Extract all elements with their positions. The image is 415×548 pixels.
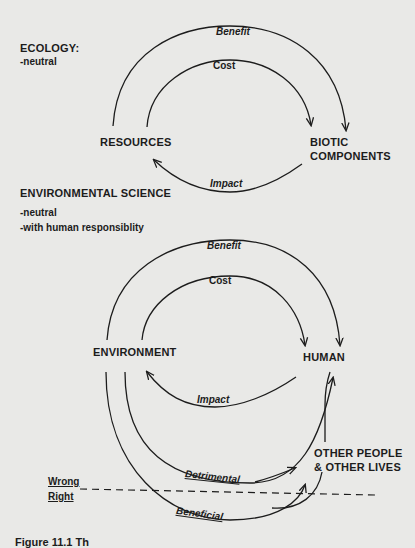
- others-beneficial-return: [272, 472, 322, 508]
- detrimental-branch: [255, 468, 295, 482]
- env-impact-label: Impact: [197, 394, 229, 405]
- env-benefit-label: Benefit: [207, 240, 241, 251]
- wrong-right-divider: [80, 489, 375, 495]
- env-node-environment: ENVIRONMENT: [93, 346, 176, 359]
- env-node-human: HUMAN: [303, 351, 345, 364]
- eco-node-biotic-1: BIOTIC: [310, 136, 348, 149]
- env-node-others-2: & OTHER LIVES: [314, 461, 401, 474]
- eco-benefit-arc: [113, 26, 346, 130]
- envsci-note-neutral: -neutral: [20, 207, 57, 219]
- env-benefit-arc: [107, 240, 340, 345]
- eco-node-resources: RESOURCES: [100, 136, 171, 149]
- env-node-others-1: OTHER PEOPLE: [314, 447, 403, 460]
- env-cost-arc: [142, 276, 305, 345]
- eco-impact-label: Impact: [210, 178, 242, 189]
- env-cost-label: Cost: [209, 275, 231, 286]
- wrong-label: Wrong: [48, 476, 79, 488]
- figure-caption: Figure 11.1 Th: [15, 536, 89, 548]
- detrimental-arc: [125, 372, 333, 483]
- ecology-heading: ECOLOGY:: [20, 42, 79, 55]
- envsci-heading: ENVIRONMENTAL SCIENCE: [20, 187, 171, 200]
- eco-cost-label: Cost: [213, 60, 235, 71]
- ecology-note-neutral: -neutral: [20, 56, 57, 68]
- right-label: Right: [48, 491, 74, 503]
- eco-benefit-label: Benefit: [216, 26, 250, 37]
- envsci-note-responsibility: -with human responsiblity: [20, 222, 144, 234]
- eco-node-biotic-2: COMPONENTS: [310, 150, 391, 163]
